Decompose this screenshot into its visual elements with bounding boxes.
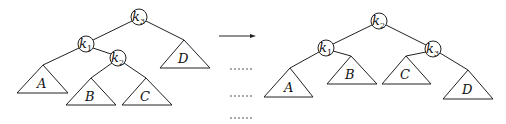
subtree-A: A [17, 65, 68, 93]
edge-k1-A [290, 52, 319, 68]
left-tree: A B C D k3 k1 k2 [17, 9, 210, 105]
subtree-C: C [122, 78, 172, 105]
subtree-label-A: A [36, 76, 46, 91]
edge-k3-D [440, 53, 468, 70]
edge-k1-B [333, 51, 351, 56]
arrow-right-icon [250, 34, 256, 38]
node-k2: k2 [371, 13, 387, 30]
right-tree: A B C D k2 k1 k3 [264, 13, 493, 99]
subtree-label-C: C [140, 89, 150, 104]
edge-k2-C [124, 63, 146, 78]
subtree-label-B: B [84, 89, 95, 104]
edge-k2-k3 [386, 25, 426, 45]
subtree-label-B: B [344, 67, 355, 82]
tree-rotation-diagram: A B C D k3 k1 k2 [0, 0, 506, 124]
edge-k3-C [406, 52, 426, 56]
node-k1: k1 [318, 40, 334, 57]
subtree-B: B [66, 78, 116, 105]
node-k3: k3 [131, 9, 147, 26]
subtree-B: B [327, 56, 377, 84]
dashed-lines [230, 69, 253, 118]
subtree-label-D: D [461, 82, 473, 97]
subtree-D: D [160, 40, 210, 68]
edge-k1-A [43, 48, 79, 65]
subtree-A: A [264, 68, 313, 97]
node-k3: k3 [425, 41, 441, 58]
edge-k2-B [91, 63, 112, 78]
node-k1: k1 [78, 36, 94, 53]
edge-k1-k2 [93, 48, 111, 54]
edge-k3-k1 [93, 21, 132, 40]
node-k2: k2 [110, 50, 126, 67]
subtree-D: D [443, 70, 493, 99]
subtree-C: C [382, 56, 431, 84]
edge-k2-k1 [333, 25, 372, 44]
edge-k3-D [146, 21, 184, 40]
subtree-label-D: D [177, 51, 189, 66]
subtree-label-C: C [400, 67, 410, 82]
transform-arrow [219, 34, 256, 38]
subtree-label-A: A [283, 80, 293, 95]
